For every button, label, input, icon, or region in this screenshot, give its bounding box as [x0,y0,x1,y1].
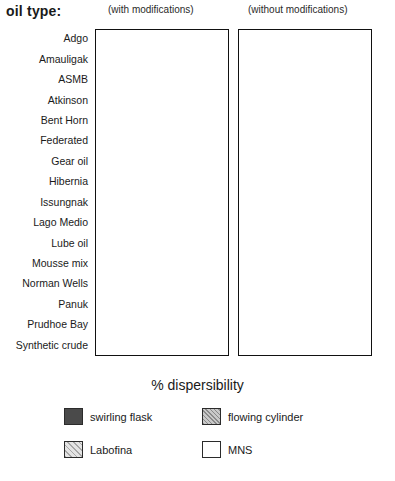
category-label: Lube oil [51,238,88,249]
category-label: Synthetic crude [16,340,88,351]
category-label: Federated [40,135,88,146]
y-axis-title: oil type: [6,3,61,19]
category-label-list: AdgoAmauligakASMBAtkinsonBent HornFedera… [0,29,91,356]
bars-right [239,30,371,355]
category-label: ASMB [58,74,88,85]
category-label: Atkinson [48,95,88,106]
figure-header: oil type: (with modifications) (without … [0,0,395,22]
legend-item-swirling-flask: swirling flask [64,408,152,425]
category-label: Adgo [63,33,88,44]
category-label: Lago Medio [33,217,88,228]
legend-swatch-swirling-flask [64,408,83,425]
panel-right-caption: (without modifications) [248,4,347,15]
figure-root: oil type: (with modifications) (without … [0,0,395,481]
legend-item-mns: MNS [202,441,252,458]
category-label: Norman Wells [22,278,88,289]
legend-label-swirling-flask: swirling flask [90,411,152,423]
legend-swatch-mns [202,441,221,458]
category-label: Panuk [58,299,88,310]
legend-item-flowing-cylinder: flowing cylinder [202,408,303,425]
category-label: Mousse mix [32,258,88,269]
category-label: Hibernia [49,176,88,187]
plot-panel-with-modifications [95,29,229,356]
legend-swatch-labofina [64,441,83,458]
bars-left [96,30,228,355]
category-label: Bent Horn [41,115,88,126]
legend-swatch-flowing-cylinder [202,408,221,425]
legend: swirling flask flowing cylinder Labofina… [60,408,350,474]
legend-label-flowing-cylinder: flowing cylinder [228,411,303,423]
x-axis-ticklabels-left [95,363,229,375]
category-label: Gear oil [51,156,88,167]
legend-label-mns: MNS [228,444,252,456]
panel-left-caption: (with modifications) [108,4,194,15]
category-label: Amauligak [39,54,88,65]
x-axis-ticklabels-right [238,363,372,375]
category-label: Prudhoe Bay [27,319,88,330]
x-axis-title: % dispersibility [0,377,395,393]
plot-panel-without-modifications [238,29,372,356]
legend-label-labofina: Labofina [90,444,132,456]
legend-item-labofina: Labofina [64,441,132,458]
category-label: Issungnak [40,197,88,208]
